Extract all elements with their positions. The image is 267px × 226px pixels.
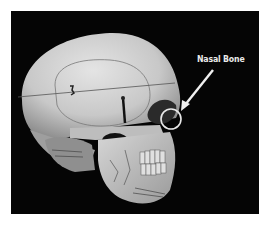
nasal-bone-label: Nasal Bone — [197, 53, 245, 64]
annotation-arrow — [185, 70, 213, 105]
image-frame — [11, 11, 259, 214]
cranium — [22, 33, 180, 140]
skull-illustration — [11, 11, 259, 214]
teeth — [140, 150, 166, 175]
